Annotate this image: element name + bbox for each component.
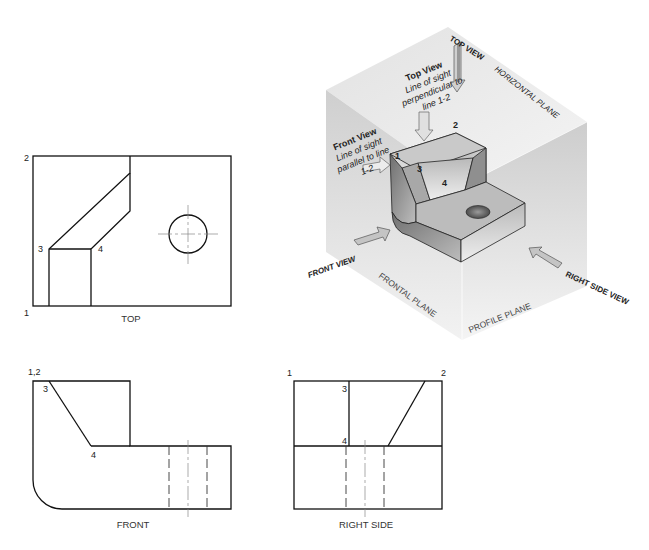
multiview-diagram: 2 3 4 1 TOP 1,2 3 4 FRONT 1 2 3 4 RIGHT …: [0, 0, 649, 550]
right-side-point-2: 2: [441, 368, 446, 378]
object-hole: [466, 206, 490, 219]
top-view-outline: [33, 156, 231, 306]
front-view-caption: FRONT: [117, 519, 150, 530]
top-view-point-1: 1: [24, 308, 29, 318]
right-side-outline: [294, 381, 442, 509]
top-view: 2 3 4 1 TOP: [24, 153, 231, 324]
pictorial-point-4: 4: [442, 178, 447, 188]
pictorial-point-2: 2: [453, 120, 458, 130]
front-view-edge-3-4: [49, 381, 91, 446]
pictorial-point-1: 1: [395, 151, 400, 161]
pictorial-point-3: 3: [417, 164, 422, 174]
top-view-point-2: 2: [24, 153, 29, 163]
right-side-caption: RIGHT SIDE: [339, 519, 393, 530]
top-view-point-3: 3: [38, 244, 43, 254]
top-view-caption: TOP: [121, 313, 140, 324]
right-side-inclined-edge: [388, 381, 425, 446]
glass-box-pictorial: 1 2 3 4 Top View Line of sight perpendic…: [307, 27, 631, 340]
right-side-view: 1 2 3 4 RIGHT SIDE: [287, 368, 446, 530]
front-view-point-4: 4: [91, 450, 96, 460]
top-view-inclined-edge-4: [91, 173, 130, 306]
right-side-point-1: 1: [287, 368, 292, 378]
top-view-point-4: 4: [98, 244, 103, 254]
front-view-point-3: 3: [43, 384, 48, 394]
right-side-point-3: 3: [342, 384, 347, 394]
right-side-point-4: 4: [342, 436, 347, 446]
front-view-point-1-2: 1,2: [28, 367, 41, 377]
front-view-outline: [33, 381, 231, 509]
front-view: 1,2 3 4 FRONT: [28, 367, 231, 530]
top-view-inclined-edge-3: [49, 156, 130, 306]
